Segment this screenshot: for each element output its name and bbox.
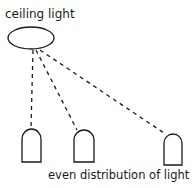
receiver-shape-2 — [74, 130, 94, 162]
receiver-shape-1 — [22, 129, 41, 162]
light-rays — [31, 50, 164, 133]
caption-label: even distribution of light — [48, 168, 190, 182]
light-distribution-diagram: ceiling light even distribution of light — [0, 0, 193, 188]
light-ray-1 — [31, 50, 33, 128]
ceiling-light-ellipse — [8, 27, 54, 49]
receivers — [22, 129, 182, 165]
light-ray-3 — [40, 50, 164, 133]
ceiling-light-label: ceiling light — [5, 7, 75, 21]
light-ray-2 — [36, 50, 77, 130]
receiver-shape-3 — [164, 134, 182, 165]
